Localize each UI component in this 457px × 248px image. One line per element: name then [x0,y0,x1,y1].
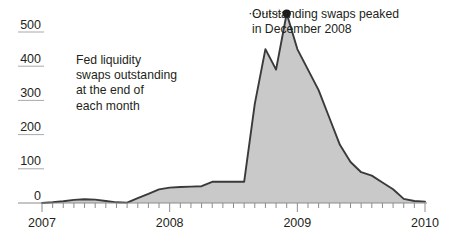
y-tick-label: 500 [20,18,41,32]
y-tick-label: 300 [20,86,41,100]
x-axis-labels-group: 2007200820092010 [28,216,439,230]
x-tick-label: 2007 [28,216,56,230]
y-axis-labels-group: 0100200300400500 [20,18,41,203]
y-tick-label: 200 [20,120,41,134]
y-tick-label: 400 [20,52,41,66]
x-axis-group [18,203,427,212]
caption-line: at the end of [76,83,144,97]
annotation-text: Outstanding swaps peakedin December 2008 [252,7,399,36]
caption-line: swaps outstanding [76,68,177,82]
chart-caption: Fed liquidityswaps outstandingat the end… [76,53,177,113]
x-tick-label: 2010 [411,216,439,230]
caption-line: each month [76,99,140,113]
x-tick-label: 2009 [283,216,311,230]
fed-liquidity-swaps-area-chart: 0100200300400500 2007200820092010 Fed li… [0,0,457,248]
peak-annotation: Outstanding swaps peakedin December 2008 [248,7,399,36]
x-tick-label: 2008 [156,216,184,230]
y-tick-label: 0 [34,189,41,203]
y-tick-label: 100 [20,154,41,168]
annotation-line: Outstanding swaps peaked [252,7,399,21]
caption-line: Fed liquidity [76,53,142,67]
annotation-line: in December 2008 [252,22,352,36]
chart-container: 0100200300400500 2007200820092010 Fed li… [0,0,457,248]
